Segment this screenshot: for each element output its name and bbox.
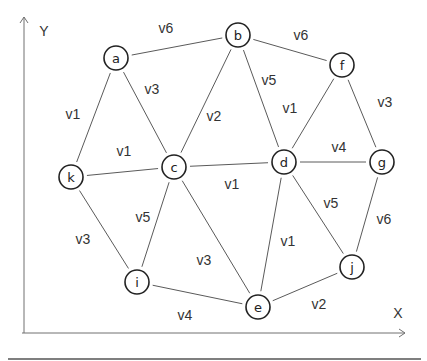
edge-weight-label: v2 [312, 296, 327, 312]
edge-weight-label: v6 [159, 20, 174, 36]
edge-b-f [253, 39, 326, 60]
edge-weight-label: v3 [76, 231, 91, 247]
edge-c-d [190, 163, 268, 167]
edge-f-g [348, 80, 376, 147]
y-axis-label: Y [39, 23, 49, 39]
edge-d-e [261, 178, 281, 292]
edge-weight-label: v1 [283, 100, 298, 116]
edge-i-e [153, 285, 243, 304]
node-c: c [162, 155, 186, 179]
edge-a-b [132, 38, 223, 55]
node-j: j [340, 255, 364, 279]
edge-weight-label: v5 [262, 72, 277, 88]
edge-k-c [87, 169, 158, 176]
node-label: c [170, 160, 177, 175]
edge-c-e [182, 181, 250, 294]
edge-weight-label: v5 [136, 209, 151, 225]
node-label: d [280, 155, 288, 170]
edge-weight-label: v5 [324, 195, 339, 211]
edge-weight-label: v2 [207, 108, 222, 124]
x-axis-label: X [393, 305, 403, 321]
node-label: g [378, 155, 386, 170]
edge-d-j [293, 175, 344, 253]
edge-b-d [243, 50, 278, 147]
node-label: e [254, 300, 262, 315]
edge-g-j [356, 177, 377, 251]
edge-weight-label: v1 [66, 106, 81, 122]
node-i: i [125, 270, 149, 294]
edge-weight-label: v6 [377, 211, 392, 227]
edge-weight-label: v1 [117, 143, 132, 159]
edge-weight-label: v6 [294, 27, 309, 43]
edge-weight-label: v4 [332, 139, 347, 155]
node-k: k [59, 165, 83, 189]
node-label: a [112, 51, 120, 66]
edge-e-j [273, 273, 338, 300]
node-b: b [226, 23, 250, 47]
edge-b-c [181, 49, 231, 152]
node-label: k [67, 170, 75, 185]
edge-k-i [80, 191, 129, 269]
node-label: b [234, 28, 242, 43]
nodes: abfkcdgiej [59, 23, 394, 319]
edge-weight-label: v3 [378, 94, 393, 110]
node-e: e [246, 295, 270, 319]
node-a: a [104, 46, 128, 70]
edge-weight-label: v1 [281, 233, 296, 249]
edge-weight-label: v1 [225, 176, 240, 192]
node-d: d [272, 150, 296, 174]
edge-f-d [292, 79, 334, 149]
node-label: i [135, 275, 139, 290]
graph-diagram: Y X v6v6v1v3v2v5v1v3v1v1v4v3v5v3v1v5v6v4… [0, 0, 427, 361]
node-label: j [349, 260, 354, 275]
edge-weight-label: v3 [197, 252, 212, 268]
node-label: f [340, 58, 345, 73]
edge-weight-label: v3 [145, 81, 160, 97]
edges [77, 38, 378, 304]
edge-weight-label: v4 [178, 307, 193, 323]
node-g: g [370, 150, 394, 174]
node-f: f [330, 53, 354, 77]
edge-a-k [77, 73, 111, 162]
